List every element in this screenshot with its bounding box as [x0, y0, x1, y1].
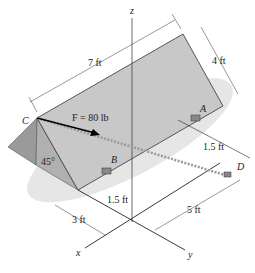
dim-tick	[29, 97, 37, 112]
bracket-b	[102, 168, 111, 174]
dim-3ft-label: 3 ft	[72, 214, 86, 225]
point-a-label: A	[199, 103, 207, 114]
dim-a-offset-label: 1.5 ft	[203, 141, 224, 152]
point-c-label: C	[22, 115, 29, 126]
point-d-label: D	[236, 161, 245, 172]
bracket-a	[191, 115, 200, 121]
dim-5ft-label: 5 ft	[187, 204, 201, 215]
diagram-canvas: z x y C A B D F = 80 lb 7 ft 4 ft 1.5 ft…	[0, 0, 255, 273]
force-label: F = 80 lb	[72, 112, 108, 123]
dim-b-offset-label: 1.5 ft	[107, 194, 128, 205]
bracket-d	[224, 172, 231, 177]
y-axis-label: y	[187, 249, 193, 260]
y-axis-line	[78, 190, 185, 250]
z-axis-label: z	[129, 5, 134, 16]
dim-7ft-label: 7 ft	[88, 57, 102, 68]
point-b-label: B	[111, 154, 117, 165]
x-axis-label: x	[75, 247, 81, 258]
dim-tick	[172, 14, 181, 29]
angle-label: 45°	[41, 156, 55, 167]
dim-4ft-label: 4 ft	[212, 55, 226, 66]
